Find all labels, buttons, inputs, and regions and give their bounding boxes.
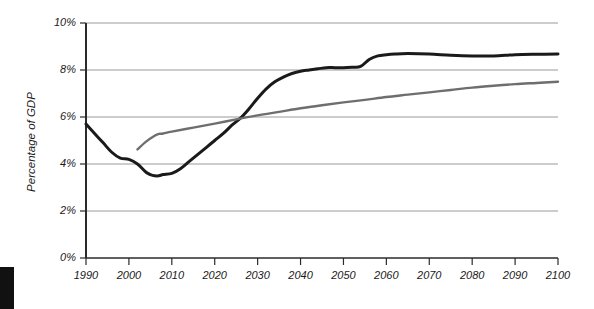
x-tick-label: 2010 (150, 269, 194, 281)
x-tick-label: 2070 (407, 269, 451, 281)
x-tick-label: 2080 (450, 269, 494, 281)
gridlines-group (86, 23, 558, 211)
x-tick-label: 2000 (107, 269, 151, 281)
x-tick-label: 2100 (536, 269, 580, 281)
y-tick-label: 10% (42, 16, 76, 28)
series-line-projection-dark (86, 54, 558, 176)
x-tick-label: 2040 (279, 269, 323, 281)
x-tick-label: 2030 (236, 269, 280, 281)
series-line-projection-gray (137, 82, 558, 150)
x-tick-label: 1990 (64, 269, 108, 281)
y-tick-label: 4% (42, 157, 76, 169)
x-tick-label: 2090 (493, 269, 537, 281)
y-tick-label: 8% (42, 63, 76, 75)
chart-container: Percentage of GDP 0%2%4%6%8%10% 19902000… (0, 0, 594, 309)
y-tick-label: 2% (42, 204, 76, 216)
x-tick-label: 2050 (321, 269, 365, 281)
data-series-group (86, 54, 558, 176)
x-tick-label: 2020 (193, 269, 237, 281)
y-tick-label: 0% (42, 251, 76, 263)
y-tick-label: 6% (42, 110, 76, 122)
x-tick-marks-group (86, 258, 558, 265)
x-tick-label: 2060 (364, 269, 408, 281)
line-chart-plot (0, 0, 594, 309)
